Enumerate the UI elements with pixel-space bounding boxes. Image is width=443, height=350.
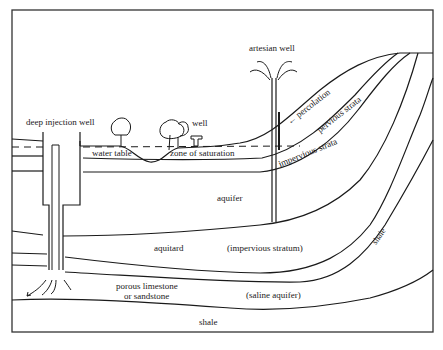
fountain-spray-2: [257, 62, 271, 78]
injection-pipe-inner: [52, 145, 59, 270]
porous-limestone-base: [12, 270, 433, 309]
diagram-frame: [12, 10, 433, 332]
impervious-strata-top: [83, 53, 410, 172]
tree-icon: [111, 118, 130, 146]
well-pump-icon: [191, 136, 202, 146]
ground-surface: [80, 53, 433, 162]
left-ground-line: [12, 139, 43, 141]
cross-section-diagram: deep injection well artesian well well w…: [0, 0, 443, 350]
fountain-spray-3: [277, 62, 292, 78]
flow-arrow-4: [64, 280, 71, 290]
label-zone-of-saturation: zone of saturation: [170, 148, 235, 158]
label-aquifer: aquifer: [217, 193, 242, 203]
aquitard-base-left: [12, 253, 47, 254]
label-deep-injection-well: deep injection well: [26, 117, 95, 127]
label-impervious-strata: impervious strata: [277, 136, 338, 169]
label-water-table: water table: [92, 148, 132, 158]
aquifer-base: [63, 53, 418, 236]
fountain-spray-1: [250, 70, 270, 80]
label-or-sandstone: or sandstone: [124, 291, 169, 301]
label-shale-bottom: shale: [199, 317, 218, 327]
label-saline-aquifer: (saline aquifer): [246, 290, 301, 300]
injection-well-outer-right: [63, 132, 80, 270]
label-artesian-well: artesian well: [249, 43, 295, 53]
label-porous-limestone: porous limestone: [116, 281, 178, 291]
injection-well-outer-left: [43, 132, 49, 270]
label-well: well: [192, 118, 208, 128]
shale-base-left: [12, 265, 47, 266]
tree-cluster-icon: [160, 120, 189, 150]
label-shale-curve: shale: [369, 226, 387, 246]
label-aquitard: aquitard: [154, 243, 184, 253]
aquitard-top-left: [12, 231, 43, 235]
fountain-spray-4: [278, 70, 297, 80]
flow-arrow-2: [42, 280, 52, 295]
label-impervious-stratum: (impervious stratum): [227, 243, 303, 253]
